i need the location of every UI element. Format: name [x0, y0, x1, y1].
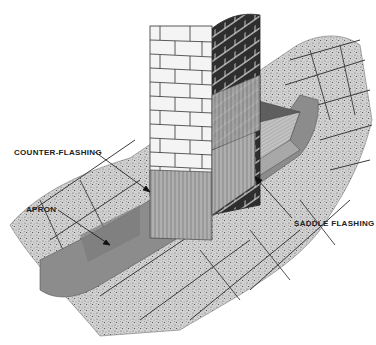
label-apron: APRON: [26, 206, 56, 214]
label-saddle-flashing: SADDLE FLASHING: [294, 220, 375, 228]
label-counter-flashing: COUNTER-FLASHING: [14, 149, 102, 157]
chimney-flashing-illustration: [0, 0, 376, 345]
